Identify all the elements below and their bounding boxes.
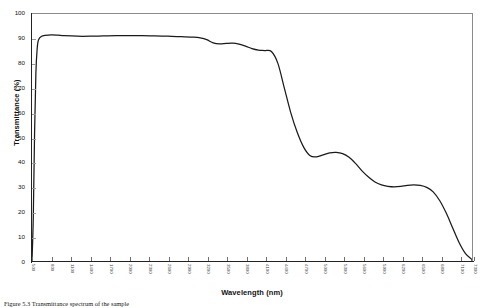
- x-tick-label-3200: 3200: [206, 264, 211, 274]
- y-tick-mark-90: [32, 39, 36, 40]
- x-axis-title: Wavelength (nm): [31, 288, 473, 297]
- x-tick-label-4100: 4100: [264, 264, 269, 274]
- x-tick-mark-3500: [227, 257, 228, 261]
- y-axis-tick-labels: 1009080706050403020100: [0, 0, 29, 308]
- x-tick-label-6500: 6500: [420, 264, 425, 274]
- x-tick-mark-800: [52, 257, 53, 261]
- y-tick-mark-40: [32, 163, 36, 164]
- x-tick-label-5000: 5000: [323, 264, 328, 274]
- y-tick-mark-20: [32, 213, 36, 214]
- x-tick-label-2600: 2600: [167, 264, 172, 274]
- y-tick-label-60: 60: [18, 110, 25, 116]
- x-tick-label-4400: 4400: [284, 264, 289, 274]
- x-tick-label-2300: 2300: [147, 264, 152, 274]
- y-tick-mark-60: [32, 114, 36, 115]
- x-tick-label-3800: 3800: [245, 264, 250, 274]
- y-tick-label-40: 40: [18, 159, 25, 165]
- x-tick-label-5300: 5300: [342, 264, 347, 274]
- figure-transmittance-spectrum: Transmittance (%) 1009080706050403020100…: [0, 0, 483, 308]
- x-tick-mark-5600: [364, 257, 365, 261]
- x-tick-mark-1700: [110, 257, 111, 261]
- x-tick-mark-4100: [266, 257, 267, 261]
- y-tick-label-100: 100: [15, 10, 25, 16]
- x-tick-label-1400: 1400: [89, 264, 94, 274]
- x-tick-label-2900: 2900: [186, 264, 191, 274]
- x-tick-label-2000: 2000: [128, 264, 133, 274]
- x-tick-label-6800: 6800: [440, 264, 445, 274]
- x-tick-label-3500: 3500: [225, 264, 230, 274]
- x-tick-mark-5900: [383, 257, 384, 261]
- figure-caption: Figure 5.3 Transmittance spectrum of the…: [4, 300, 474, 307]
- x-tick-label-6200: 6200: [401, 264, 406, 274]
- x-axis-tick-labels: 5008001100140017002000230026002900320035…: [31, 264, 473, 290]
- x-tick-mark-4700: [305, 257, 306, 261]
- x-tick-mark-6200: [403, 257, 404, 261]
- x-tick-label-7100: 7100: [459, 264, 464, 274]
- x-tick-label-800: 800: [50, 264, 55, 271]
- x-tick-label-4700: 4700: [303, 264, 308, 274]
- y-tick-mark-80: [32, 64, 36, 65]
- y-tick-label-90: 90: [18, 35, 25, 41]
- x-tick-mark-1100: [71, 257, 72, 261]
- x-tick-mark-4400: [286, 257, 287, 261]
- plot-area: [31, 13, 473, 262]
- y-tick-label-20: 20: [18, 209, 25, 215]
- x-tick-mark-2000: [130, 257, 131, 261]
- x-tick-mark-7100: [461, 257, 462, 261]
- x-tick-mark-2300: [149, 257, 150, 261]
- x-tick-mark-5000: [325, 257, 326, 261]
- x-tick-mark-3200: [208, 257, 209, 261]
- x-tick-label-7300: 7300: [472, 264, 477, 274]
- x-tick-label-5900: 5900: [381, 264, 386, 274]
- x-tick-mark-2600: [169, 257, 170, 261]
- y-tick-label-70: 70: [18, 85, 25, 91]
- y-tick-mark-10: [32, 238, 36, 239]
- x-tick-mark-1400: [91, 257, 92, 261]
- y-tick-label-30: 30: [18, 184, 25, 190]
- y-tick-mark-50: [32, 139, 36, 140]
- x-tick-label-5600: 5600: [362, 264, 367, 274]
- y-tick-label-50: 50: [18, 135, 25, 141]
- y-tick-label-10: 10: [18, 234, 25, 240]
- x-tick-mark-3800: [247, 257, 248, 261]
- y-tick-label-0: 0: [22, 259, 25, 265]
- y-tick-mark-70: [32, 89, 36, 90]
- x-tick-mark-2900: [188, 257, 189, 261]
- x-tick-mark-7300: [474, 257, 475, 261]
- x-tick-label-1100: 1100: [69, 264, 74, 273]
- y-tick-mark-30: [32, 188, 36, 189]
- x-tick-label-1700: 1700: [108, 264, 113, 274]
- x-tick-mark-6800: [442, 257, 443, 261]
- y-tick-label-80: 80: [18, 60, 25, 66]
- x-tick-mark-6500: [422, 257, 423, 261]
- x-tick-mark-500: [32, 257, 33, 261]
- x-tick-mark-5300: [344, 257, 345, 261]
- transmittance-curve: [32, 14, 472, 261]
- x-tick-label-500: 500: [30, 264, 35, 271]
